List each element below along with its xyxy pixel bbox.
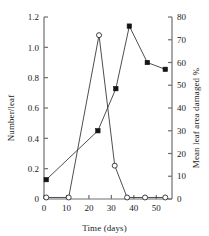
data-point-filled-square [44,177,48,181]
data-point-open-circle [112,163,117,168]
data-point-open-circle [125,195,130,200]
x-axis-tick-label: 10 [62,203,72,213]
chart-figure: 0102030405000.20.40.60.81.01.20102030405… [0,0,209,236]
y-axis-left-tick-label: 0 [35,194,40,204]
data-point-open-circle [44,195,49,200]
x-axis-title: Time (days) [0,223,209,233]
y-axis-right-tick-label: 40 [177,103,187,113]
data-point-filled-square [163,67,167,71]
y-axis-right-title: Mean leaf area damaged % [191,43,201,193]
data-point-open-circle [143,195,148,200]
y-axis-right-tick-label: 0 [177,194,182,204]
x-axis-tick-label: 40 [129,203,139,213]
data-point-open-circle [97,33,102,38]
y-axis-right-tick-label: 60 [177,58,187,68]
y-axis-left-tick-label: 0.6 [28,103,40,113]
x-axis-tick-label: 30 [107,203,117,213]
y-axis-right-tick-label: 50 [177,80,187,90]
y-axis-left-tick-label: 1.2 [28,12,39,22]
data-point-open-circle [66,195,71,200]
series-line-number-per-leaf [46,35,165,197]
y-axis-right-tick-label: 10 [177,171,187,181]
plot-area: 0102030405000.20.40.60.81.01.20102030405… [0,0,209,236]
y-axis-right-tick-label: 80 [177,12,187,22]
y-axis-left-title: Number/leaf [6,70,16,166]
data-point-filled-square [114,86,118,90]
y-axis-right-tick-label: 70 [177,35,187,45]
data-point-open-circle [163,195,168,200]
y-axis-left-tick-label: 0.8 [28,73,40,83]
data-point-filled-square [127,24,131,28]
x-axis-tick-label: 0 [42,203,47,213]
x-axis-tick-label: 20 [84,203,94,213]
y-axis-left-tick-label: 1.0 [28,43,40,53]
y-axis-left-tick-label: 0.2 [28,164,39,174]
y-axis-right-tick-label: 30 [177,126,187,136]
data-point-filled-square [96,129,100,133]
y-axis-left-tick-label: 0.4 [28,134,40,144]
data-point-filled-square [145,60,149,64]
series-line-leaf-area-damaged [46,26,165,180]
x-axis-tick-label: 50 [152,203,162,213]
y-axis-right-tick-label: 20 [177,149,187,159]
